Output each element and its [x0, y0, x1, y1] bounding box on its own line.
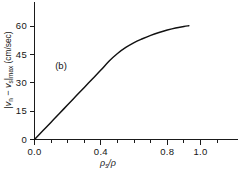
y-tick-label-30: 30: [16, 77, 27, 88]
x-tick-label-0.4: 0.4: [94, 146, 108, 157]
y-tick-label-60: 60: [16, 20, 27, 31]
y-tick-labels: 0 15 30 45 60: [16, 20, 27, 144]
y-tick-label-0: 0: [21, 134, 27, 145]
svg-text:ρs/ρ: ρs/ρ: [99, 158, 116, 169]
y-axis-title-max-sub: max: [7, 65, 14, 78]
x-axis-title: ρs/ρ: [99, 158, 116, 169]
x-tick-labels: 0.0 0.4 0.8 1.0: [27, 146, 207, 157]
y-axis-title: |vn − vs|max (cm/sec): [3, 31, 14, 108]
chart-plot-area: 0 15 30 45 60 0.0 0.4 0.8 1.0 (b) ρs/ρ |…: [0, 0, 239, 169]
data-series-curve: [35, 26, 189, 140]
y-axis-ticks: [30, 26, 35, 139]
x-tick-label-1.0: 1.0: [193, 146, 207, 157]
svg-text:|vn − vs|max (cm/sec): |vn − vs|max (cm/sec): [3, 31, 14, 108]
y-axis-title-units: (cm/sec): [3, 31, 13, 66]
x-axis-title-tail: /ρ: [107, 158, 116, 168]
x-tick-label-0.8: 0.8: [160, 146, 174, 157]
y-tick-label-15: 15: [16, 105, 27, 116]
panel-label: (b): [55, 60, 67, 71]
chart-figure: 0 15 30 45 60 0.0 0.4 0.8 1.0 (b) ρs/ρ |…: [0, 0, 239, 169]
y-tick-label-45: 45: [16, 49, 27, 60]
y-axis-title-dash: −: [3, 88, 13, 98]
x-tick-label-0.0: 0.0: [27, 146, 41, 157]
